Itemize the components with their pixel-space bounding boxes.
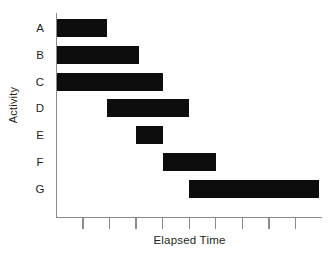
y-axis-category-label: D: [30, 102, 50, 114]
x-axis-tick: [295, 218, 296, 229]
gantt-chart: Activity ABCDEFG Elapsed Time: [0, 0, 335, 262]
y-axis-title-text: Activity: [7, 87, 19, 123]
gantt-bar: [189, 180, 319, 198]
y-axis-category-label: E: [30, 129, 50, 141]
y-axis-category-label: F: [30, 156, 50, 168]
gantt-bar: [57, 73, 163, 91]
y-axis-title: Activity: [0, 0, 26, 210]
gantt-bar: [136, 126, 163, 144]
gantt-bar: [57, 19, 107, 37]
y-axis-category-label: B: [30, 49, 50, 61]
x-axis-tick: [162, 218, 163, 229]
y-axis-line: [56, 13, 57, 218]
x-axis-tick: [215, 218, 216, 229]
y-axis-category-label: G: [30, 183, 50, 195]
x-axis-tick: [242, 218, 243, 229]
x-axis-title: Elapsed Time: [57, 234, 322, 246]
x-axis-tick: [135, 218, 136, 229]
x-axis-tick: [189, 218, 190, 229]
y-axis-category-label: C: [30, 76, 50, 88]
x-axis-tick: [82, 218, 83, 229]
gantt-bar: [163, 153, 216, 171]
gantt-bar: [57, 46, 139, 64]
x-axis-tick: [109, 218, 110, 229]
x-axis-tick: [268, 218, 269, 229]
gantt-bar: [107, 99, 189, 117]
y-axis-category-label: A: [30, 22, 50, 34]
